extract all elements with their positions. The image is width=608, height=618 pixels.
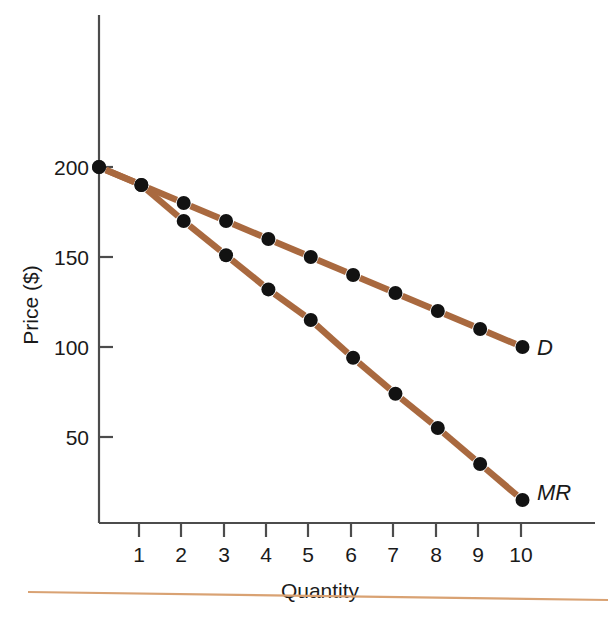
data-point (304, 250, 318, 264)
x-tick-label-7: 7 (387, 543, 399, 566)
segment (359, 363, 390, 389)
data-point (388, 387, 402, 401)
data-point (177, 214, 191, 228)
x-tick-label-6: 6 (345, 543, 357, 566)
x-tick-label-8: 8 (430, 543, 442, 566)
data-point (388, 286, 402, 300)
x-tick-marks (139, 523, 521, 537)
segment (191, 206, 220, 218)
data-point (346, 351, 360, 365)
series-label-demand: D (537, 335, 553, 360)
y-axis-title: Price ($) (19, 265, 42, 344)
series-layer (92, 160, 530, 507)
segment (318, 260, 347, 272)
x-tick-label-5: 5 (302, 543, 314, 566)
data-point (261, 232, 275, 246)
x-tick-label-3: 3 (218, 543, 230, 566)
data-point (473, 457, 487, 471)
price-quantity-chart: 200 150 100 50 1 2 3 4 5 6 7 8 (0, 0, 608, 618)
segment (106, 170, 135, 182)
y-tick-label-200: 200 (54, 156, 89, 179)
data-point (92, 160, 106, 174)
data-point (219, 248, 233, 262)
data-point (431, 304, 445, 318)
segment (274, 294, 304, 316)
y-tick-marks (99, 167, 113, 437)
y-tick-label-50: 50 (66, 426, 89, 449)
segment (233, 224, 262, 236)
data-point (304, 313, 318, 327)
segment (401, 399, 432, 424)
y-tick-label-150: 150 (54, 246, 89, 269)
x-tick-label-1: 1 (133, 543, 145, 566)
data-point (219, 214, 233, 228)
data-point (473, 322, 487, 336)
data-point (261, 282, 275, 296)
data-point (516, 493, 530, 507)
x-tick-label-9: 9 (472, 543, 484, 566)
series-label-marginal-revenue: MR (537, 480, 571, 505)
y-tick-label-100: 100 (54, 336, 89, 359)
segment (444, 433, 475, 459)
x-tick-labels: 1 2 3 4 5 6 7 8 9 10 (133, 543, 533, 566)
x-tick-label-4: 4 (260, 543, 272, 566)
segment (402, 296, 431, 308)
segment (486, 469, 517, 495)
data-point (431, 421, 445, 435)
segment (360, 278, 389, 290)
data-point (516, 340, 530, 354)
y-tick-labels: 200 150 100 50 (54, 156, 89, 449)
segment (445, 314, 474, 326)
data-point (346, 268, 360, 282)
x-tick-label-2: 2 (175, 543, 187, 566)
x-tick-label-10: 10 (509, 543, 532, 566)
chart-page: 200 150 100 50 1 2 3 4 5 6 7 8 (0, 0, 608, 618)
segment (487, 332, 516, 344)
series-mr (92, 160, 530, 507)
data-point (177, 196, 191, 210)
segment (316, 325, 347, 353)
x-axis-title: Quantity (281, 579, 360, 602)
segment (275, 242, 304, 254)
data-point (134, 178, 148, 192)
segment (190, 226, 221, 251)
segment (232, 260, 263, 285)
